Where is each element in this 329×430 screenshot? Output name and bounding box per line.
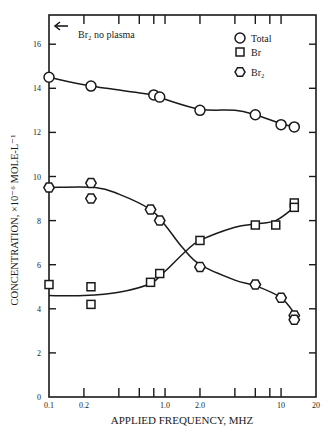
square-marker-icon	[147, 278, 155, 286]
square-marker-icon	[251, 221, 259, 229]
legend-hexagon-icon	[235, 68, 245, 77]
legend-label-br: Br	[251, 47, 262, 58]
hexagon-marker-icon	[44, 183, 54, 192]
circle-marker-icon	[155, 92, 165, 102]
legend-label-br2: Br₂	[251, 67, 265, 78]
x-axis-title: APPLIED FREQUENCY, MHZ	[111, 414, 254, 426]
annotation-no-plasma: Br₂ no plasma	[55, 22, 135, 40]
y-tick-label: 10	[33, 173, 41, 182]
plot-border	[49, 15, 316, 397]
x-tick-label: 1.0	[160, 401, 170, 410]
x-tick-label: 0.1	[44, 401, 54, 410]
x-tick-label: 0.2	[79, 401, 89, 410]
annotation-text: Br₂ no plasma	[78, 29, 135, 40]
square-marker-icon	[156, 270, 164, 278]
circle-marker-icon	[276, 120, 286, 130]
square-marker-icon	[45, 281, 53, 289]
fit-curve-br	[49, 187, 294, 313]
hexagon-marker-icon	[86, 194, 96, 203]
square-marker-icon	[290, 203, 298, 211]
hexagon-marker-icon	[250, 280, 260, 289]
square-marker-icon	[196, 236, 204, 244]
legend: Total Br Br₂	[235, 33, 272, 78]
legend-square-icon	[236, 48, 244, 56]
circle-marker-icon	[195, 105, 205, 115]
x-tick-label: 2.0	[195, 401, 205, 410]
square-marker-icon	[87, 300, 95, 308]
y-tick-label: 12	[33, 128, 41, 137]
y-tick-label: 6	[37, 261, 41, 270]
axis-ticks	[49, 15, 316, 397]
hexagon-marker-icon	[155, 216, 165, 225]
legend-label-total: Total	[251, 33, 272, 44]
x-tick-label: 20	[312, 401, 320, 410]
arrow-left-icon	[55, 22, 68, 30]
data-markers	[44, 72, 300, 324]
y-tick-label: 4	[37, 305, 41, 314]
square-marker-icon	[87, 283, 95, 291]
circle-marker-icon	[44, 72, 54, 82]
circle-marker-icon	[289, 122, 299, 132]
y-axis-title: CONCENTRATION, ×10⁻⁶ MOLE-L⁻¹	[9, 135, 20, 306]
circle-marker-icon	[86, 81, 96, 91]
plot-frame	[49, 15, 316, 397]
concentration-vs-frequency-chart: 0.10.21.02.010200246810121416 Br₂ no pla…	[0, 0, 329, 430]
y-tick-label: 2	[37, 349, 41, 358]
hexagon-marker-icon	[195, 262, 205, 271]
circle-marker-icon	[250, 110, 260, 120]
y-tick-label: 14	[33, 84, 41, 93]
hexagon-marker-icon	[86, 179, 96, 188]
legend-circle-icon	[235, 33, 245, 43]
x-tick-label: 10	[277, 401, 285, 410]
hexagon-marker-icon	[289, 315, 299, 324]
hexagon-marker-icon	[145, 205, 155, 214]
y-tick-label: 0	[37, 393, 41, 402]
y-tick-label: 16	[33, 40, 41, 49]
y-tick-label: 8	[37, 217, 41, 226]
square-marker-icon	[272, 221, 280, 229]
hexagon-marker-icon	[276, 293, 286, 302]
